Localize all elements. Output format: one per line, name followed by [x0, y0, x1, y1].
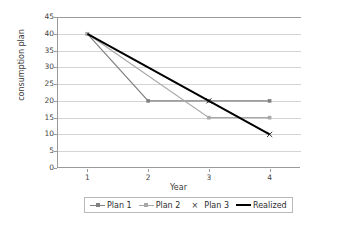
data-point-marker [146, 99, 150, 103]
legend-label: Realized [253, 201, 287, 210]
data-point-marker [268, 116, 272, 120]
series-line [87, 34, 269, 135]
data-point-marker [268, 99, 272, 103]
series-line [87, 34, 269, 101]
x-axis-tick-label: 4 [258, 173, 282, 182]
x-axis-tick-labels: 1234 [57, 169, 300, 183]
legend-item-plan-2[interactable]: Plan 2 [139, 201, 181, 210]
square-marker-icon [96, 203, 100, 207]
legend-item-plan-3[interactable]: ×Plan 3 [187, 201, 229, 210]
legend-swatch-icon [139, 201, 154, 210]
x-axis-tick-label: 2 [136, 173, 160, 182]
y-axis-tick-label: 20 [28, 97, 54, 105]
line-icon [236, 204, 251, 206]
x-marker-icon: × [187, 200, 202, 211]
legend-label: Plan 1 [107, 201, 132, 210]
y-axis-tick-label: 15 [28, 114, 54, 122]
series-realized [87, 34, 269, 135]
y-axis-tick-label: 30 [28, 63, 54, 71]
x-axis-tick-mark [270, 169, 271, 172]
y-axis-tick-label: 45 [28, 13, 54, 21]
legend-label: Plan 2 [156, 201, 181, 210]
legend-swatch-icon [236, 201, 251, 210]
x-axis-tick-mark [148, 169, 149, 172]
y-axis-tick-label: 40 [28, 30, 54, 38]
y-axis-tick-label: 25 [28, 80, 54, 88]
series-plan-1 [86, 32, 272, 103]
x-axis-tick-mark [209, 169, 210, 172]
series-plan-2 [86, 32, 272, 119]
data-point-marker [207, 116, 211, 120]
y-axis-tick-label: 35 [28, 47, 54, 55]
data-series-layer [57, 17, 300, 168]
legend-item-plan-1[interactable]: Plan 1 [90, 201, 132, 210]
series-line [87, 34, 269, 118]
y-axis-tick-label: 10 [28, 130, 54, 138]
line-chart: 051015202530354045 consumption plan 1234… [0, 0, 352, 227]
x-axis-tick-mark [87, 169, 88, 172]
legend-label: Plan 3 [204, 201, 229, 210]
y-axis-tick-labels: 051015202530354045 [24, 17, 54, 168]
y-axis-tick-label: 5 [28, 147, 54, 155]
y-axis-tick-label: 0 [28, 164, 54, 172]
chart-legend: Plan 1Plan 2×Plan 3Realized [84, 197, 293, 213]
legend-swatch-icon [90, 201, 105, 210]
legend-swatch-icon: × [187, 201, 202, 210]
legend-item-realized[interactable]: Realized [236, 201, 287, 210]
x-axis-tick-label: 3 [197, 173, 221, 182]
y-axis-title: consumption plan [17, 10, 27, 120]
x-axis-tick-label: 1 [75, 173, 99, 182]
square-marker-icon [144, 203, 148, 207]
x-axis-title: Year [57, 183, 300, 193]
